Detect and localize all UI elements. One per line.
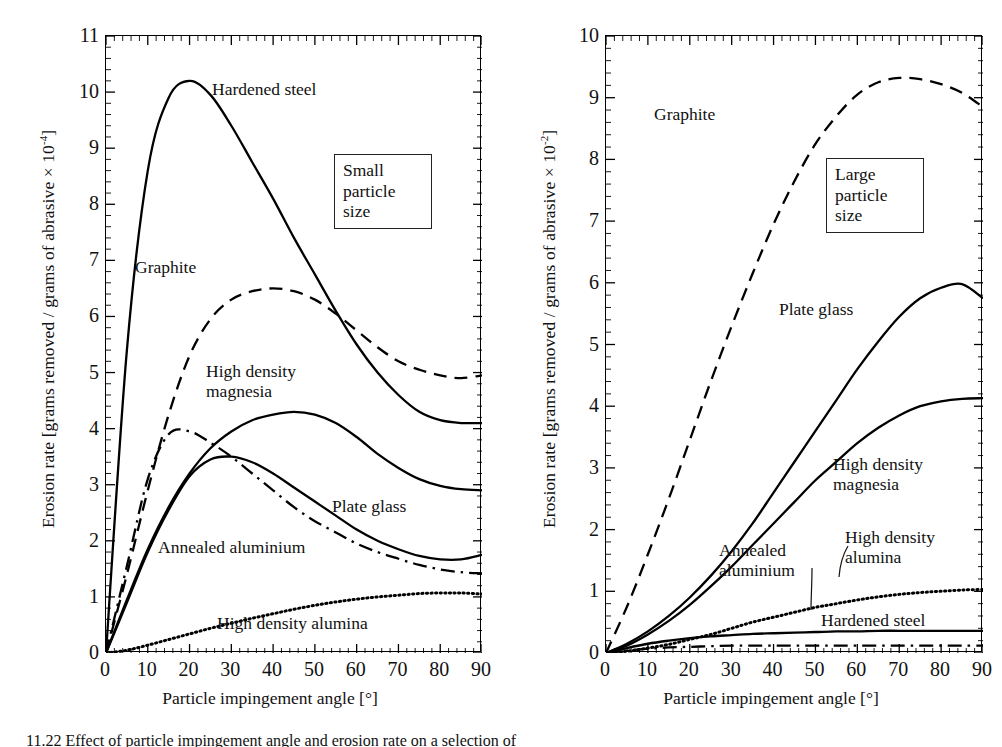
y-tick-label: 2 [559,519,599,539]
x-tick-label: 80 [419,659,459,679]
curve-plate-glass [606,284,983,653]
x-tick-label: 50 [294,659,334,679]
x-tick-label: 10 [127,659,167,679]
y-tick-label: 8 [59,193,99,213]
y-tick-label: 5 [59,362,99,382]
y-tick-label: 2 [59,530,99,550]
x-tick-label: 90 [461,659,501,679]
curve-hardened-steel [606,631,983,653]
y-tick-label: 1 [59,586,99,606]
y-tick-label: 5 [559,334,599,354]
y-tick-label: 9 [59,137,99,157]
curve-label-high-density-alumina: High density alumina [217,614,368,634]
x-tick-label: 30 [711,659,751,679]
x-tick-label: 50 [794,659,834,679]
curve-label-annealed-aluminium: Annealed aluminium [719,541,795,580]
y-tick-label: 6 [59,305,99,325]
y-tick-label: 3 [59,474,99,494]
curve-label-hardened-steel: Hardened steel [821,611,925,631]
curve-graphite [106,288,482,653]
curve-label-high-density-magnesia: High density magnesia [833,455,923,494]
x-tick-label: 40 [252,659,292,679]
curve-high-density-magnesia [606,398,983,653]
erosion-rate-figure: Erosion rate [grams removed / grams of a… [0,0,1002,747]
y-tick-label: 4 [559,395,599,415]
y-axis-label-left: Erosion rate [grams removed / grams of a… [37,29,59,629]
curve-label-high-density-alumina: High density alumina [845,528,935,567]
y-tick-label: 8 [559,148,599,168]
curves-small-particle [106,36,482,653]
curve-label-plate-glass: Plate glass [332,497,406,517]
y-tick-label: 10 [59,81,99,101]
y-tick-label: 1 [559,580,599,600]
x-tick-label: 30 [210,659,250,679]
curve-label-graphite: Graphite [135,258,196,278]
y-tick-label: 3 [559,457,599,477]
panel-large-particle-size: Erosion rate [grams removed / grams of a… [501,0,1002,700]
note-box-small-particle: Small particle size [334,154,432,229]
x-axis-label-right: Particle impingement angle [°] [561,688,981,709]
y-tick-label: 9 [559,87,599,107]
x-tick-label: 70 [878,659,918,679]
curve-label-hardened-steel: Hardened steel [212,80,316,100]
y-tick-label: 7 [559,210,599,230]
curve-label-high-density-magnesia: High density magnesia [206,362,296,401]
leader-line-annealed-aluminium [811,568,812,610]
y-tick-label: 7 [59,249,99,269]
y-tick-label: 6 [559,272,599,292]
x-axis-label-left: Particle impingement angle [°] [60,688,480,709]
y-axis-label-right: Erosion rate [grams removed / grams of a… [538,29,560,629]
panel-small-particle-size: Erosion rate [grams removed / grams of a… [0,0,501,700]
x-tick-label: 10 [627,659,667,679]
x-tick-label: 20 [669,659,709,679]
x-tick-label: 40 [753,659,793,679]
x-tick-label: 80 [920,659,960,679]
x-tick-label: 60 [836,659,876,679]
x-tick-label: 0 [585,659,625,679]
x-tick-label: 90 [962,659,1002,679]
y-tick-label: 11 [59,25,99,45]
x-tick-label: 70 [377,659,417,679]
note-box-large-particle: Large particle size [826,158,924,233]
x-tick-label: 60 [336,659,376,679]
curve-label-graphite: Graphite [654,105,715,125]
y-tick-label: 4 [59,418,99,438]
y-tick-label: 10 [559,25,599,45]
curve-label-plate-glass: Plate glass [779,300,853,320]
curve-label-annealed-aluminium: Annealed aluminium [158,538,305,558]
plot-area-small-particle [105,35,481,652]
x-tick-label: 20 [169,659,209,679]
x-tick-label: 0 [85,659,125,679]
figure-caption: 11.22 Effect of particle impingement ang… [26,731,986,747]
